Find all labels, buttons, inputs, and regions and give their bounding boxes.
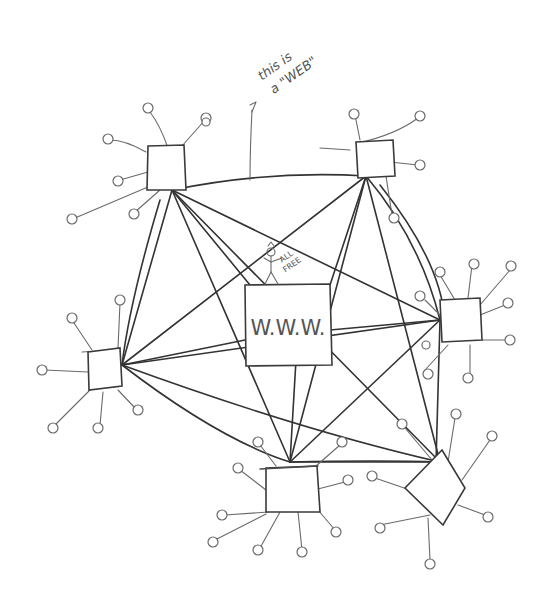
annotation-pointer (250, 110, 252, 180)
node-box (440, 298, 482, 342)
node-top-right (320, 109, 425, 223)
arrow-icon (250, 102, 256, 112)
node-box (266, 466, 320, 512)
node-box (147, 145, 186, 190)
web-diagram: W.W.W. ALL FREE this is a "WEB" (0, 0, 539, 602)
www-label: W.W.W. (250, 316, 325, 340)
annotation: this is a "WEB" (250, 39, 320, 180)
node-top-left (67, 103, 211, 224)
stick-figure: ALL FREE (264, 242, 303, 284)
node-bottom (208, 437, 353, 557)
node-box (88, 348, 122, 390)
node-box (356, 140, 395, 178)
center-node: W.W.W. (245, 284, 332, 366)
